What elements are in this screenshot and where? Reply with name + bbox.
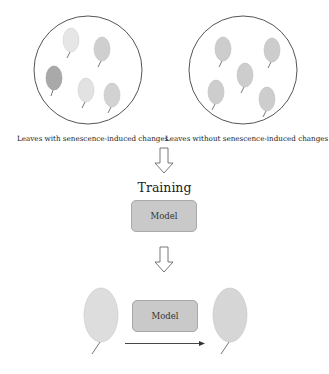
training-label: Training — [0, 180, 329, 195]
right-arrow-icon — [125, 341, 205, 346]
healthy-leaves-group — [189, 16, 297, 124]
senescent-leaves-group — [34, 16, 142, 124]
model-box-inference: Model — [132, 300, 198, 332]
model-box-training: Model — [131, 200, 197, 232]
senescence-diagram: Leaves with senescence-induced changes L… — [0, 0, 329, 374]
model-label: Model — [150, 211, 177, 221]
model-label: Model — [151, 311, 178, 321]
output-leaf-icon — [213, 288, 247, 354]
senescent-caption: Leaves with senescence-induced changes — [17, 134, 168, 143]
down-arrow-icon — [155, 247, 173, 272]
down-arrow-icon — [155, 148, 173, 173]
input-leaf-icon — [84, 288, 118, 354]
healthy-caption: Leaves without senescence-induced change… — [165, 134, 328, 143]
